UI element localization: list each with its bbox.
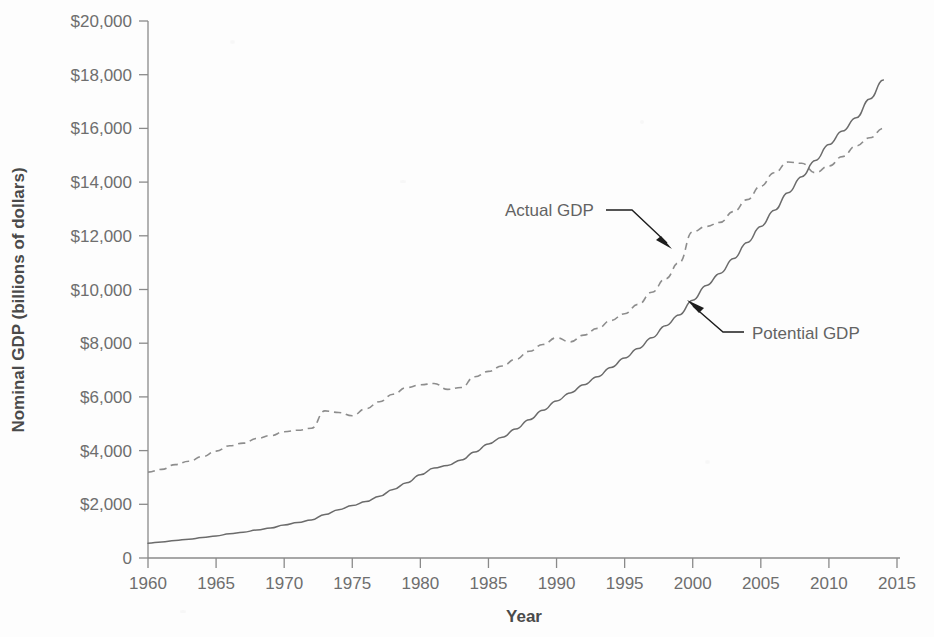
- potential-gdp-line: [148, 80, 883, 543]
- x-tick-label: 2015: [878, 574, 916, 593]
- x-tick-label: 2010: [810, 574, 848, 593]
- x-tick-label: 1970: [265, 574, 303, 593]
- y-tick-label: $18,000: [71, 66, 132, 85]
- y-tick-label: $10,000: [71, 281, 132, 300]
- potential-gdp-label: Potential GDP: [752, 324, 860, 343]
- potential-gdp-annotation: Potential GDP: [687, 300, 860, 343]
- x-tick-label: 1975: [333, 574, 371, 593]
- y-tick-label: $6,000: [80, 388, 132, 407]
- y-tick-label: $16,000: [71, 119, 132, 138]
- x-tick-label: 2005: [742, 574, 780, 593]
- x-tick-label: 1960: [129, 574, 167, 593]
- x-tick-label: 1965: [197, 574, 235, 593]
- y-tick-label: $2,000: [80, 495, 132, 514]
- y-tick-label: $8,000: [80, 334, 132, 353]
- x-tick-label: 1980: [401, 574, 439, 593]
- x-tick-label: 1990: [538, 574, 576, 593]
- plot-area: 0$2,000$4,000$6,000$8,000$10,000$12,000$…: [0, 0, 934, 637]
- potential-gdp-arrowhead: [687, 300, 704, 313]
- y-tick-label: 0: [123, 549, 132, 568]
- actual-gdp-arrowhead: [656, 236, 672, 249]
- actual-gdp-line: [148, 128, 883, 472]
- y-tick-label: $20,000: [71, 12, 132, 31]
- actual-gdp-leader-line: [606, 210, 667, 243]
- actual-gdp-annotation: Actual GDP: [505, 201, 672, 249]
- y-tick-label: $14,000: [71, 173, 132, 192]
- x-axis-title: Year: [506, 607, 542, 626]
- y-tick-label: $12,000: [71, 227, 132, 246]
- y-tick-label: $4,000: [80, 442, 132, 461]
- gdp-chart: 0$2,000$4,000$6,000$8,000$10,000$12,000$…: [0, 0, 934, 637]
- x-tick-label: 1985: [470, 574, 508, 593]
- actual-gdp-label: Actual GDP: [505, 201, 594, 220]
- x-tick-label: 2000: [674, 574, 712, 593]
- y-axis-ticks: 0$2,000$4,000$6,000$8,000$10,000$12,000$…: [71, 12, 148, 568]
- y-axis-title: Nominal GDP (billions of dollars): [9, 167, 28, 432]
- x-axis-ticks: 1960196519701975198019851990199520002005…: [129, 558, 916, 593]
- x-tick-label: 1995: [606, 574, 644, 593]
